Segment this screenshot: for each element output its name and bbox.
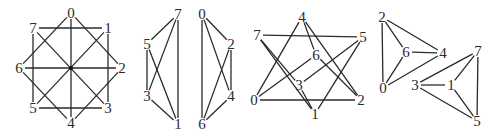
k4-even: 0246 xyxy=(198,6,235,132)
node-label-0: 0 xyxy=(67,5,75,21)
edge-7-5 xyxy=(151,18,173,40)
node-label-4: 4 xyxy=(298,9,306,25)
node-label-1: 1 xyxy=(311,106,319,122)
edge-6-0 xyxy=(386,57,403,83)
edge-2-6 xyxy=(204,50,229,119)
edge-5-1 xyxy=(149,50,176,119)
node-label-3: 3 xyxy=(143,88,151,104)
node-label-5: 5 xyxy=(359,29,367,45)
two-triangles-graph: 26407315 xyxy=(378,9,482,129)
node-label-6: 6 xyxy=(312,47,320,63)
edge-5-1 xyxy=(318,42,360,109)
k4-odd: 7531 xyxy=(143,6,182,132)
node-label-7: 7 xyxy=(253,27,261,43)
node-label-2: 2 xyxy=(227,36,235,52)
node-label-2: 2 xyxy=(378,9,386,25)
edge-2-0 xyxy=(382,23,383,82)
node-label-3: 3 xyxy=(411,77,419,93)
node-label-6: 6 xyxy=(198,116,206,132)
node-label-6: 6 xyxy=(402,44,410,60)
edge-6-4 xyxy=(412,52,437,53)
node-label-1: 1 xyxy=(447,77,455,93)
edge-0-4 xyxy=(204,20,229,91)
node-label-7: 7 xyxy=(174,6,182,22)
graph-diagram: 01234567753102464756302126407315 xyxy=(0,0,496,136)
node-label-1: 1 xyxy=(104,20,112,36)
center-point xyxy=(69,66,73,70)
edge-7-3 xyxy=(261,40,295,81)
octagon-graph: 01234567 xyxy=(15,5,126,131)
node-label-5: 5 xyxy=(143,36,151,52)
node-label-7: 7 xyxy=(29,20,37,36)
node-label-3: 3 xyxy=(104,100,112,116)
node-label-2: 2 xyxy=(118,60,126,76)
node-label-5: 5 xyxy=(29,100,37,116)
node-label-5: 5 xyxy=(473,113,481,129)
node-label-0: 0 xyxy=(379,80,387,96)
crossed-graph: 47563021 xyxy=(250,9,367,122)
node-label-0: 0 xyxy=(198,6,206,22)
node-label-4: 4 xyxy=(227,88,235,104)
edge-7-3 xyxy=(149,20,176,91)
edge-2-6 xyxy=(385,22,402,47)
node-label-4: 4 xyxy=(439,45,447,61)
node-label-3: 3 xyxy=(295,77,303,93)
node-label-7: 7 xyxy=(474,43,482,59)
node-label-1: 1 xyxy=(174,116,182,132)
edge-1-5 xyxy=(455,90,474,116)
edge-7-1 xyxy=(455,56,475,81)
node-label-6: 6 xyxy=(15,60,23,76)
edge-7-5 xyxy=(263,35,357,37)
edge-7-5 xyxy=(477,57,478,115)
node-label-4: 4 xyxy=(67,115,75,131)
node-label-0: 0 xyxy=(250,92,258,108)
node-label-2: 2 xyxy=(357,92,365,108)
